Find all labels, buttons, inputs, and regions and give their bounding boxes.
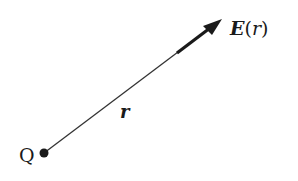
field-close-paren: ) — [261, 17, 268, 39]
field-label: E(r) — [230, 17, 268, 39]
position-vector-line — [44, 52, 178, 153]
position-vector-label: r — [120, 101, 129, 122]
field-vector-shaft — [177, 28, 210, 53]
point-charge-dot — [40, 149, 49, 158]
field-symbol: E — [230, 17, 244, 39]
field-argument: r — [252, 17, 261, 39]
charge-label: Q — [19, 144, 35, 166]
field-open-paren: ( — [244, 17, 251, 39]
